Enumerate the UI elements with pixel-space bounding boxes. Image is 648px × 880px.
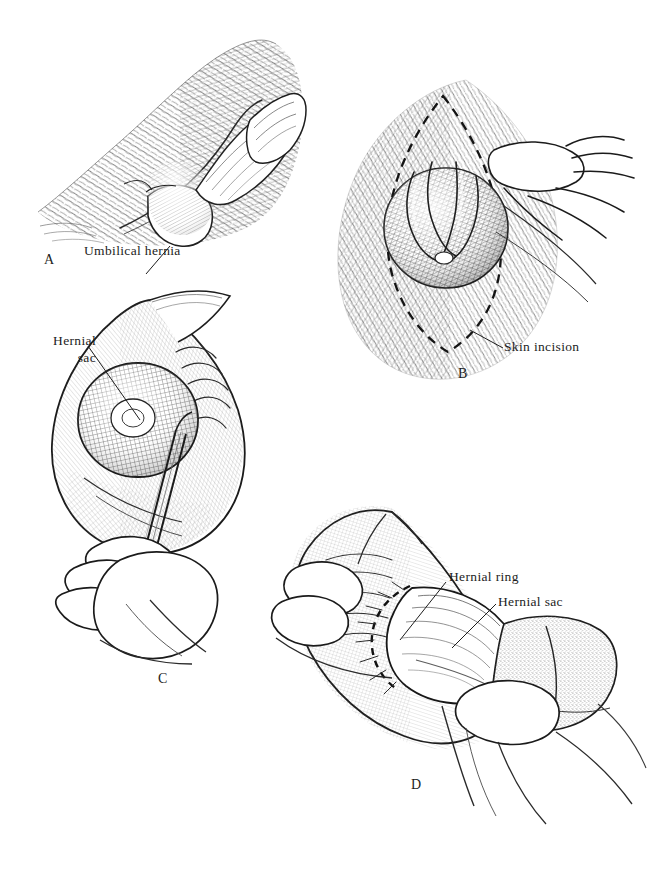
umbilical-hernia-label: Umbilical hernia [84,243,181,259]
panel-a-drawing [20,20,320,274]
hernial-ring-label: Hernial ring [449,569,519,585]
panel-letter-c: C [158,671,168,687]
panel-letter-a: A [44,252,55,268]
figure-plate: Umbilical hernia A Skin incision B Herni… [0,0,648,880]
panel-b-drawing [330,70,634,390]
panel-letter-b: B [458,366,468,382]
skin-incision-label: Skin incision [504,339,579,355]
illustration-canvas [0,0,648,880]
hernial-sac-label-line1: Hernial [53,333,96,348]
hernial-sac-label-line2: sac [78,350,96,365]
hernial-sac-label-d: Hernial sac [498,594,563,610]
panel-d-drawing [272,500,646,824]
panel-letter-d: D [411,777,422,793]
